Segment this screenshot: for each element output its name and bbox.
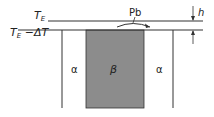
eutectic-growth-diagram: TE TE −ΔT Pb h α β α (0, 0, 214, 117)
beta-label: β (109, 63, 117, 76)
right-alpha-label: α (156, 64, 163, 75)
pb-diffusion-arrow-icon (117, 24, 150, 28)
te-minus-dt-label: TE −ΔT (10, 26, 49, 40)
arrowhead-icon (145, 24, 150, 29)
h-arrowhead-up-icon (191, 30, 195, 35)
left-alpha-label: α (71, 64, 78, 75)
te-label: TE (34, 9, 46, 23)
h-label: h (198, 7, 204, 18)
h-arrowhead-down-icon (191, 16, 195, 21)
pb-label: Pb (129, 7, 141, 18)
